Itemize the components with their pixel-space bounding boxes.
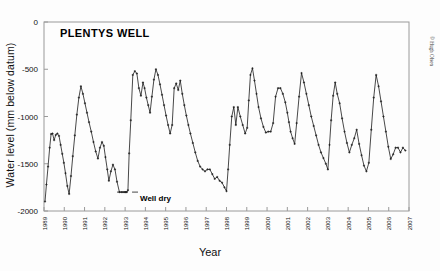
data-point-marker xyxy=(140,95,142,97)
data-point-marker xyxy=(325,163,327,165)
data-point-marker xyxy=(334,81,336,83)
data-point-marker xyxy=(387,146,389,148)
x-tick-label: 1991 xyxy=(82,216,88,230)
data-point-marker xyxy=(305,93,307,95)
data-point-marker xyxy=(248,99,250,101)
data-point-marker xyxy=(265,131,267,133)
data-point-marker xyxy=(167,124,169,126)
data-point-marker xyxy=(106,168,108,170)
data-point-marker xyxy=(82,93,84,95)
data-point-marker xyxy=(286,112,288,114)
data-point-marker xyxy=(92,141,94,143)
data-point-marker xyxy=(365,170,367,172)
data-point-marker xyxy=(300,72,302,74)
data-point-marker xyxy=(64,172,66,174)
x-axis-label: Year xyxy=(0,246,420,258)
data-point-marker xyxy=(128,152,130,154)
data-point-marker xyxy=(327,168,329,170)
copyright-credit: © Hugh Olsen xyxy=(429,36,435,66)
data-point-marker xyxy=(53,139,55,141)
data-point-marker xyxy=(74,134,76,136)
data-point-marker xyxy=(231,115,233,117)
x-tick-label: 1993 xyxy=(123,216,129,230)
data-point-marker xyxy=(138,87,140,89)
x-tick-label: 2005 xyxy=(366,216,372,230)
data-point-marker xyxy=(310,115,312,117)
data-point-marker xyxy=(72,155,74,157)
data-point-marker xyxy=(179,79,181,81)
data-point-marker xyxy=(66,185,68,187)
data-point-marker xyxy=(296,122,298,124)
data-point-marker xyxy=(242,124,244,126)
data-point-marker xyxy=(294,143,296,145)
data-point-marker xyxy=(63,162,65,164)
data-point-marker xyxy=(308,104,310,106)
data-point-marker xyxy=(336,93,338,95)
data-point-marker xyxy=(185,114,187,116)
data-point-marker xyxy=(130,119,132,121)
data-point-marker xyxy=(142,81,144,83)
data-point-marker xyxy=(246,127,248,129)
data-point-marker xyxy=(229,144,231,146)
data-point-marker xyxy=(382,115,384,117)
data-point-marker xyxy=(348,151,350,153)
data-point-marker xyxy=(277,87,279,89)
data-point-marker xyxy=(149,112,151,114)
data-point-marker xyxy=(88,121,90,123)
data-point-marker xyxy=(370,129,372,131)
y-axis-label: Water level (mm below datum) xyxy=(4,43,16,188)
data-point-marker xyxy=(332,95,334,97)
x-tick-label: 2000 xyxy=(265,216,271,230)
data-point-marker xyxy=(257,106,259,108)
data-point-marker xyxy=(76,114,78,116)
data-point-marker xyxy=(289,131,291,133)
data-point-marker xyxy=(61,153,63,155)
data-point-marker xyxy=(341,117,343,119)
data-point-marker xyxy=(70,175,72,177)
x-tick-label: 2002 xyxy=(305,216,311,230)
data-point-marker xyxy=(157,74,159,76)
axis-ticks xyxy=(44,22,409,211)
data-point-marker xyxy=(343,131,345,133)
data-point-marker xyxy=(187,124,189,126)
data-point-marker xyxy=(194,151,196,153)
data-point-marker xyxy=(253,79,255,81)
x-tick-label: 1995 xyxy=(163,216,169,230)
data-point-marker xyxy=(165,114,167,116)
data-point-marker xyxy=(346,142,348,144)
data-point-marker xyxy=(377,85,379,87)
data-point-marker xyxy=(368,162,370,164)
x-tick-label: 1999 xyxy=(244,216,250,230)
data-point-marker xyxy=(244,132,246,134)
data-point-marker xyxy=(274,96,276,98)
figure-container: 0-500-1000-1500-2000 1989199019911992199… xyxy=(0,0,440,271)
data-point-marker xyxy=(112,164,114,166)
data-point-marker xyxy=(110,170,112,172)
data-point-marker xyxy=(249,74,251,76)
data-point-marker xyxy=(60,144,62,146)
data-point-marker xyxy=(395,147,397,149)
x-tick-label: 1990 xyxy=(62,216,68,230)
page-title: PLENTYS WELL xyxy=(60,27,150,39)
data-point-marker xyxy=(145,97,147,99)
data-point-marker xyxy=(317,144,319,146)
data-point-marker xyxy=(169,132,171,134)
data-point-marker xyxy=(267,131,269,133)
data-point-marker xyxy=(147,104,149,106)
data-point-marker xyxy=(227,168,229,170)
data-point-marker xyxy=(104,156,106,158)
data-point-marker xyxy=(49,147,51,149)
data-point-marker xyxy=(114,168,116,170)
data-point-marker xyxy=(270,131,272,133)
data-point-marker xyxy=(84,102,86,104)
data-point-marker xyxy=(78,97,80,99)
data-point-marker xyxy=(292,137,294,139)
data-point-marker xyxy=(363,165,365,167)
data-point-marker xyxy=(279,87,281,89)
y-axis-label-wrap: Water level (mm below datum) xyxy=(0,0,21,230)
credit-wrap: © Hugh Olsen xyxy=(425,14,439,104)
x-tick-labels: 1989199019911992199319941995199619971998… xyxy=(42,216,413,230)
plot-frame xyxy=(44,22,409,211)
data-point-marker xyxy=(175,82,177,84)
data-point-marker xyxy=(235,124,237,126)
